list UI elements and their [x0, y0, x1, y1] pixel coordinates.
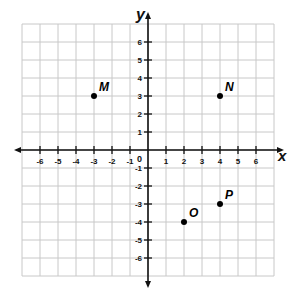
- y-tick-label: -3: [135, 200, 143, 209]
- x-tick-label: -5: [54, 157, 62, 166]
- y-axis-arrow-up-icon: [145, 12, 151, 19]
- x-tick-label: -4: [72, 157, 80, 166]
- y-tick-label: -4: [135, 218, 143, 227]
- point-label-o: O: [189, 206, 199, 220]
- y-tick-label: 6: [138, 38, 143, 47]
- point-o: [181, 219, 187, 225]
- point-label-p: P: [225, 188, 234, 202]
- y-tick-label: 1: [138, 128, 143, 137]
- y-tick-label: 3: [138, 92, 143, 101]
- point-m: [91, 93, 97, 99]
- origin-label: 0: [137, 154, 142, 164]
- x-tick-label: 4: [218, 157, 223, 166]
- x-tick-label: -6: [36, 157, 44, 166]
- y-tick-label: 4: [138, 74, 143, 83]
- axes: xy0: [14, 6, 287, 288]
- y-axis-arrow-down-icon: [145, 281, 151, 288]
- point-n: [217, 93, 223, 99]
- x-tick-label: -2: [108, 157, 116, 166]
- y-tick-label: -1: [135, 164, 143, 173]
- x-axis-arrow-left-icon: [14, 147, 21, 153]
- point-p: [217, 201, 223, 207]
- x-tick-label: 6: [254, 157, 259, 166]
- x-tick-label: 5: [236, 157, 241, 166]
- coordinate-plane: xy0 -6-5-4-3-2-1123456-6-5-4-3-2-1123456…: [0, 0, 299, 297]
- x-tick-label: 2: [182, 157, 187, 166]
- y-tick-label: 2: [138, 110, 143, 119]
- y-tick-label: 5: [138, 56, 143, 65]
- y-tick-label: -6: [135, 254, 143, 263]
- y-tick-label: -5: [135, 236, 143, 245]
- x-tick-label: 1: [164, 157, 169, 166]
- point-label-m: M: [99, 80, 110, 94]
- y-tick-label: -2: [135, 182, 143, 191]
- x-axis-label: x: [277, 147, 287, 164]
- point-label-n: N: [225, 80, 234, 94]
- y-axis-label: y: [135, 6, 146, 23]
- x-tick-label: 3: [200, 157, 205, 166]
- x-tick-label: -1: [126, 157, 134, 166]
- x-tick-label: -3: [90, 157, 98, 166]
